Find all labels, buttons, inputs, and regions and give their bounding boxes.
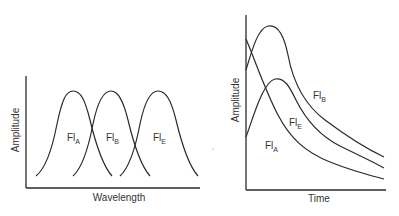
decay-curve-fl-a [246,39,384,179]
label-fl-e-time: FlE [289,117,302,130]
time-chart: Amplitude Time FlB FlE FlA [230,15,386,204]
stray-dot [212,148,213,149]
left-y-axis-label: Amplitude [10,107,21,152]
figure: Amplitude Wavelength FlA FlB FlE Amplitu… [0,0,399,216]
label-fl-e: FlE [153,132,166,145]
label-fl-a-time: FlA [265,140,278,153]
right-x-axis-label: Time [308,193,330,204]
left-x-axis-label: Wavelength [93,192,145,203]
wavelength-chart: Amplitude Wavelength FlA FlB FlE [10,76,200,203]
label-fl-b-time: FlB [313,90,326,103]
label-fl-a: FlA [67,132,80,145]
right-y-axis-label: Amplitude [230,77,241,122]
label-fl-b: FlB [106,132,119,145]
